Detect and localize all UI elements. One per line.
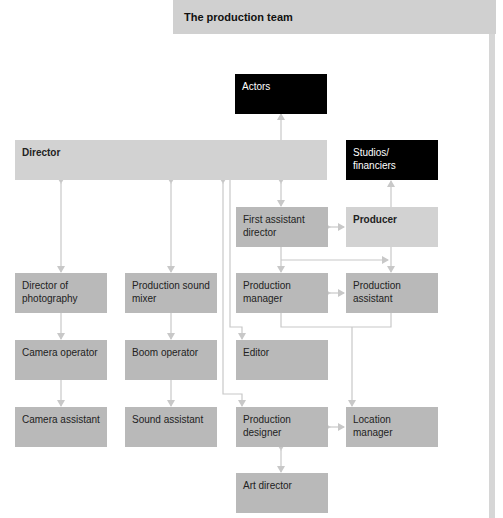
node-director-of-photography: Director of photography [15,273,107,313]
node-camera-assistant: Camera assistant [15,407,107,447]
node-first-assistant-director: First assistant director [236,207,328,247]
node-production-sound-mixer: Production sound mixer [125,273,217,313]
node-art-director: Art director [236,473,328,513]
node-boom-operator: Boom operator [125,340,217,380]
node-sound-assistant: Sound assistant [125,407,217,447]
node-production-designer: Production designer [236,407,328,447]
node-camera-operator: Camera operator [15,340,107,380]
node-studios-financiers: Studios/ financiers [346,140,438,180]
node-editor: Editor [236,340,328,380]
node-director: Director [15,140,327,180]
node-location-manager: Location manager [346,407,438,447]
node-producer: Producer [346,207,438,247]
node-production-assistant: Production assistant [346,273,438,313]
node-actors: Actors [235,74,327,114]
node-production-manager: Production manager [236,273,328,313]
